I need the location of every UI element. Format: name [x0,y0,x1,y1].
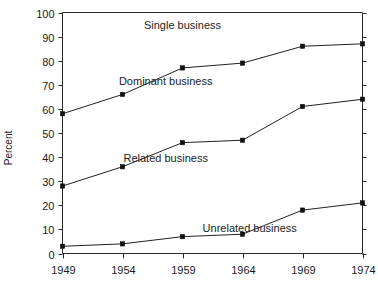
data-point-marker [240,138,244,142]
y-tick-label: 30 [42,176,54,188]
plot-frame [63,13,363,254]
data-point-marker [120,165,124,169]
series-lines-group [63,44,363,246]
x-tick-label: 1954 [111,264,135,276]
x-tick-label: 1974 [351,264,375,276]
data-point-marker [60,184,64,188]
data-point-marker [360,201,364,205]
x-axis-ticks [64,254,364,259]
y-tick-label: 90 [42,32,54,44]
series-annotation-label: Single business [144,19,222,31]
data-point-marker [60,112,64,116]
data-point-marker [120,242,124,246]
data-point-marker [300,44,304,48]
data-point-marker [180,140,184,144]
x-tick-label: 1969 [291,264,315,276]
data-point-marker [300,208,304,212]
series-line [63,99,363,186]
x-axis-tick-labels: 194919541959196419691974 [51,264,375,276]
data-point-marker [180,66,184,70]
y-tick-label: 20 [42,200,54,212]
x-tick-label: 1964 [231,264,255,276]
y-tick-label: 80 [42,56,54,68]
series-annotation-label: Dominant business [119,75,213,87]
x-tick-label: 1949 [51,264,75,276]
data-point-marker [300,104,304,108]
series-annotation-label: Unrelated business [203,222,298,234]
data-point-marker [360,97,364,101]
series-annotations-group: Single businessDominant businessRelated … [119,19,297,233]
y-axis-tick-labels: 0102030405060708090100 [36,8,54,261]
y-tick-label: 0 [48,249,54,261]
y-tick-label: 40 [42,152,54,164]
line-chart: 0102030405060708090100 19491954195919641… [0,0,378,287]
y-tick-label: 50 [42,128,54,140]
series-markers-group [60,42,364,249]
y-axis-ticks [59,14,367,255]
data-point-marker [240,61,244,65]
chart-canvas: 0102030405060708090100 19491954195919641… [0,0,378,287]
y-tick-label: 10 [42,224,54,236]
y-tick-label: 70 [42,80,54,92]
y-axis-title: Percent [3,131,14,166]
data-point-marker [60,244,64,248]
data-point-marker [180,234,184,238]
y-tick-label: 60 [42,104,54,116]
series-line [63,44,363,114]
x-tick-label: 1959 [171,264,195,276]
data-point-marker [360,42,364,46]
y-tick-label: 100 [36,8,54,20]
data-point-marker [120,92,124,96]
series-annotation-label: Related business [124,152,209,164]
